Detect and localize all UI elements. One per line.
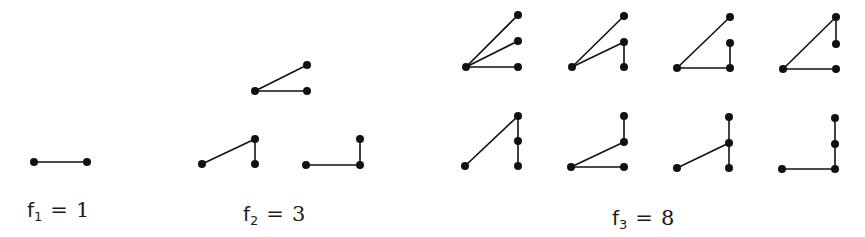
tree-edge [466, 41, 518, 67]
tree-f3-7 [673, 113, 733, 172]
label-f1: f1=1 [27, 200, 89, 223]
tree-node [461, 162, 469, 170]
tree-node [514, 63, 522, 71]
trees-diagram [0, 0, 865, 237]
tree-f1-1 [30, 158, 91, 166]
tree-node [832, 65, 840, 73]
tree-node [620, 112, 628, 120]
tree-node [620, 163, 628, 171]
tree-node [303, 87, 311, 95]
label-f2: f2=3 [243, 204, 305, 227]
tree-node [620, 12, 628, 20]
tree-node [725, 164, 733, 172]
tree-node [251, 160, 259, 168]
tree-f3-5 [461, 112, 522, 170]
tree-node [620, 138, 628, 146]
tree-node [356, 161, 364, 169]
tree-node [620, 63, 628, 71]
tree-edge [465, 116, 518, 166]
tree-node [778, 165, 786, 173]
tree-node [725, 113, 733, 121]
tree-node [198, 160, 206, 168]
tree-node [832, 13, 840, 21]
label-f2-value: 3 [292, 202, 305, 226]
tree-node [726, 39, 734, 47]
tree-f2-2 [198, 135, 259, 168]
tree-node [356, 135, 364, 143]
tree-f3-6 [567, 112, 628, 171]
tree-f2-3 [302, 135, 364, 169]
tree-edge [572, 16, 624, 67]
tree-node [620, 38, 628, 46]
tree-node [303, 61, 311, 69]
tree-node [30, 158, 38, 166]
label-f1-equals: = [50, 198, 68, 222]
tree-node [514, 11, 522, 19]
tree-node [514, 112, 522, 120]
tree-node [514, 162, 522, 170]
label-f2-symbol: f [243, 202, 250, 226]
tree-node [514, 137, 522, 145]
tree-edge [572, 42, 624, 67]
tree-edge [202, 139, 255, 164]
tree-node [462, 63, 470, 71]
tree-node [726, 64, 734, 72]
tree-node [726, 13, 734, 21]
tree-edge [677, 17, 730, 68]
label-f1-symbol: f [27, 198, 34, 222]
tree-node [779, 65, 787, 73]
tree-node [832, 40, 840, 48]
tree-edge [466, 15, 518, 67]
tree-node [831, 165, 839, 173]
tree-node [725, 139, 733, 147]
label-f3-value: 8 [661, 206, 674, 230]
tree-node [567, 163, 575, 171]
tree-f3-4 [779, 13, 840, 73]
tree-edge [783, 17, 836, 69]
tree-node [514, 37, 522, 45]
label-f3: f3=8 [612, 208, 674, 231]
tree-node [251, 87, 259, 95]
tree-f3-1 [462, 11, 522, 71]
tree-f3-2 [568, 12, 628, 71]
label-f3-index: 3 [619, 217, 627, 232]
tree-node [673, 164, 681, 172]
tree-node [831, 114, 839, 122]
tree-node [831, 140, 839, 148]
label-f1-value: 1 [76, 198, 89, 222]
tree-edge [571, 142, 624, 167]
label-f3-equals: = [635, 206, 653, 230]
label-f2-index: 2 [250, 213, 258, 228]
tree-f3-8 [778, 114, 839, 173]
tree-node [673, 64, 681, 72]
tree-f3-3 [673, 13, 734, 72]
tree-node [568, 63, 576, 71]
tree-edge [255, 65, 307, 91]
tree-f2-1 [251, 61, 311, 95]
tree-node [251, 135, 259, 143]
tree-node [302, 161, 310, 169]
label-f1-index: 1 [34, 209, 42, 224]
tree-node [83, 158, 91, 166]
tree-edge [677, 143, 729, 168]
label-f3-symbol: f [612, 206, 619, 230]
label-f2-equals: = [266, 202, 284, 226]
